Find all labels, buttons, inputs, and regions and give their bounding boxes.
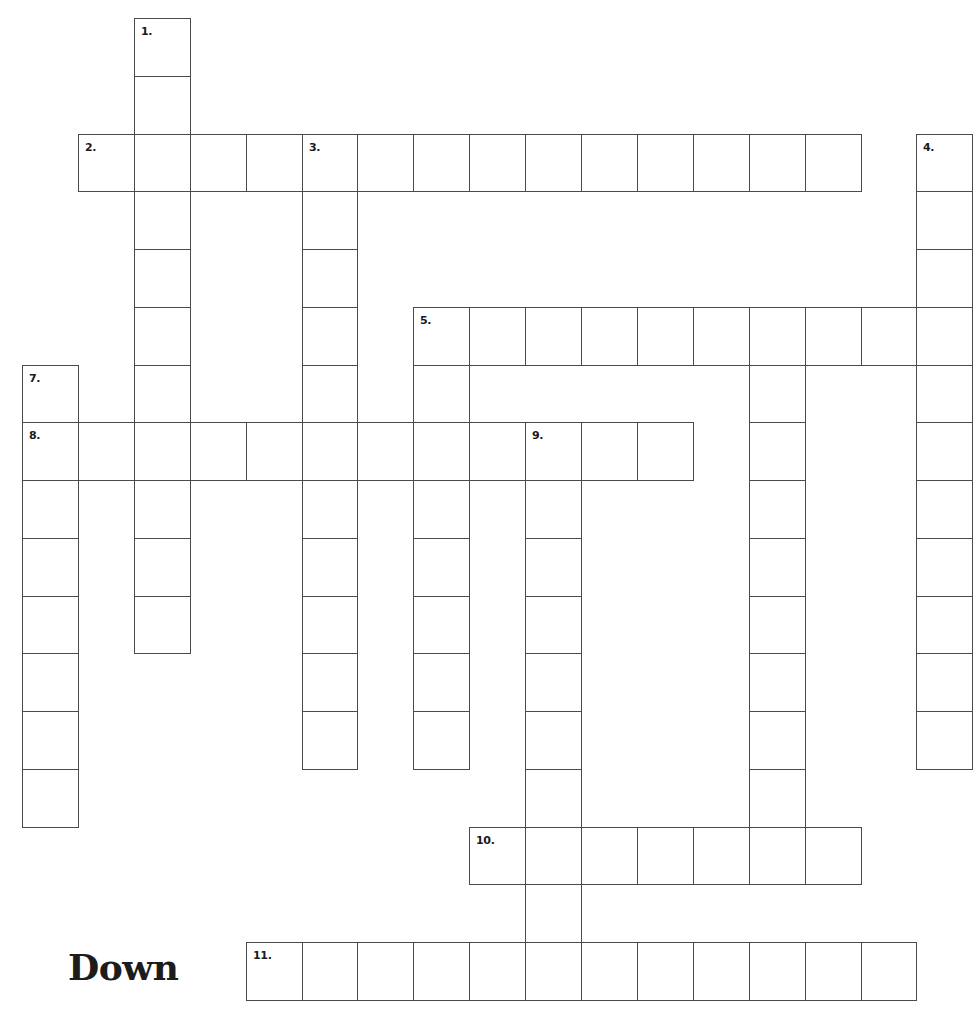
crossword-cell[interactable] [469,134,526,192]
crossword-cell[interactable] [469,307,526,366]
crossword-cell[interactable] [134,422,191,481]
crossword-cell[interactable] [22,711,79,770]
crossword-cell[interactable] [302,307,358,366]
crossword-cell[interactable] [302,942,358,1001]
crossword-cell[interactable] [916,653,973,712]
crossword-cell[interactable] [637,307,694,366]
crossword-cell[interactable]: 8. [22,422,79,481]
crossword-cell[interactable] [357,942,414,1001]
crossword-cell[interactable] [413,653,470,712]
crossword-cell[interactable] [413,711,470,770]
crossword-cell[interactable] [693,827,750,885]
crossword-cell[interactable] [357,134,414,192]
crossword-cell[interactable] [525,942,582,1001]
crossword-cell[interactable] [805,827,862,885]
crossword-cell[interactable] [861,307,917,366]
crossword-cell[interactable]: 11. [246,942,303,1001]
crossword-cell[interactable] [246,422,303,481]
crossword-cell[interactable] [749,827,806,885]
crossword-cell[interactable]: 3. [302,134,358,192]
crossword-cell[interactable] [22,653,79,712]
crossword-cell[interactable] [916,307,973,366]
crossword-cell[interactable] [22,538,79,597]
crossword-cell[interactable]: 10. [469,827,526,885]
crossword-cell[interactable] [78,422,135,481]
crossword-cell[interactable] [525,884,582,943]
crossword-cell[interactable] [413,942,470,1001]
crossword-cell[interactable] [134,538,191,597]
crossword-cell[interactable] [302,538,358,597]
crossword-cell[interactable] [749,307,806,366]
crossword-cell[interactable] [581,827,638,885]
crossword-cell[interactable] [302,249,358,308]
crossword-cell[interactable] [749,596,806,654]
crossword-cell[interactable] [525,653,582,712]
crossword-cell[interactable] [134,365,191,423]
crossword-cell[interactable] [525,538,582,597]
crossword-cell[interactable] [805,307,862,366]
crossword-cell[interactable] [749,422,806,481]
crossword-cell[interactable] [246,134,303,192]
crossword-cell[interactable] [637,942,694,1001]
crossword-cell[interactable]: 9. [525,422,582,481]
crossword-cell[interactable] [916,191,973,250]
crossword-cell[interactable] [190,422,247,481]
crossword-cell[interactable] [805,134,862,192]
crossword-cell[interactable]: 4. [916,134,973,192]
crossword-cell[interactable] [302,365,358,423]
crossword-cell[interactable] [916,365,973,423]
crossword-cell[interactable] [413,422,470,481]
crossword-cell[interactable] [413,134,470,192]
crossword-cell[interactable] [302,480,358,539]
crossword-cell[interactable] [749,480,806,539]
crossword-cell[interactable] [637,422,694,481]
crossword-cell[interactable] [22,480,79,539]
crossword-cell[interactable] [749,365,806,423]
crossword-cell[interactable] [916,249,973,308]
crossword-cell[interactable] [916,596,973,654]
crossword-cell[interactable] [525,480,582,539]
crossword-cell[interactable] [134,134,191,192]
crossword-cell[interactable] [302,191,358,250]
crossword-cell[interactable]: 7. [22,365,79,423]
crossword-cell[interactable] [413,365,470,423]
crossword-cell[interactable] [861,942,917,1001]
crossword-cell[interactable] [469,942,526,1001]
crossword-cell[interactable]: 1. [134,18,191,77]
crossword-cell[interactable] [749,711,806,770]
crossword-cell[interactable] [749,134,806,192]
crossword-cell[interactable] [749,538,806,597]
crossword-cell[interactable] [693,942,750,1001]
crossword-cell[interactable] [302,653,358,712]
crossword-cell[interactable]: 2. [78,134,135,192]
crossword-cell[interactable] [134,76,191,135]
crossword-cell[interactable] [525,134,582,192]
crossword-cell[interactable] [581,307,638,366]
crossword-cell[interactable] [190,134,247,192]
crossword-cell[interactable] [581,422,638,481]
crossword-cell[interactable] [525,769,582,828]
crossword-cell[interactable] [916,480,973,539]
crossword-cell[interactable] [413,596,470,654]
crossword-cell[interactable] [302,711,358,770]
crossword-cell[interactable] [581,134,638,192]
crossword-cell[interactable] [134,307,191,366]
crossword-cell[interactable] [413,480,470,539]
crossword-cell[interactable] [581,942,638,1001]
crossword-cell[interactable] [637,827,694,885]
crossword-cell[interactable] [134,480,191,539]
crossword-cell[interactable] [749,769,806,828]
crossword-cell[interactable] [22,769,79,828]
crossword-cell[interactable] [134,596,191,654]
crossword-cell[interactable] [916,711,973,770]
crossword-cell[interactable] [525,307,582,366]
crossword-cell[interactable] [749,653,806,712]
crossword-cell[interactable] [805,942,862,1001]
crossword-cell[interactable] [916,422,973,481]
crossword-cell[interactable] [916,538,973,597]
crossword-cell[interactable] [693,307,750,366]
crossword-cell[interactable] [357,422,414,481]
crossword-cell[interactable] [134,249,191,308]
crossword-cell[interactable] [525,711,582,770]
crossword-cell[interactable] [525,596,582,654]
